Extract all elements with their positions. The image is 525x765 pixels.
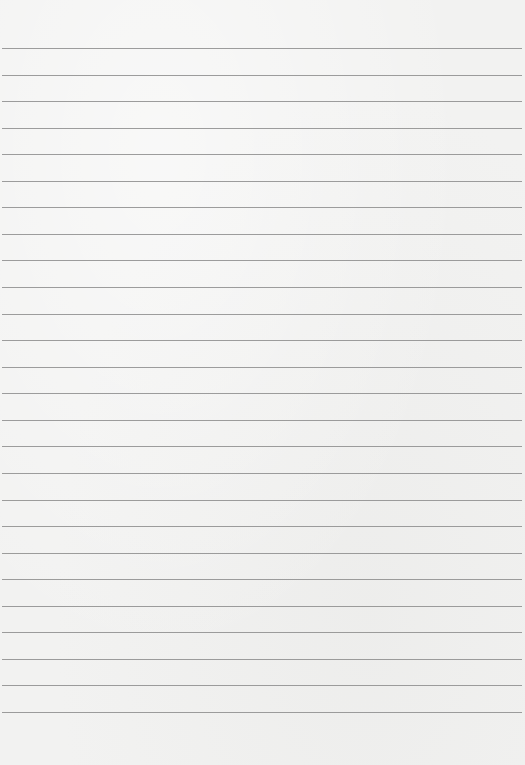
ruled-line	[2, 181, 522, 182]
ruled-line	[2, 101, 522, 102]
ruled-line	[2, 367, 522, 368]
ruled-line	[2, 579, 522, 580]
lined-paper-sheet	[0, 0, 525, 765]
ruled-line	[2, 685, 522, 686]
ruled-line	[2, 393, 522, 394]
ruled-line	[2, 207, 522, 208]
ruled-line	[2, 234, 522, 235]
ruled-line	[2, 632, 522, 633]
ruled-line	[2, 526, 522, 527]
ruled-line	[2, 420, 522, 421]
ruled-line	[2, 287, 522, 288]
ruled-line	[2, 712, 522, 713]
ruled-line	[2, 606, 522, 607]
ruled-line	[2, 128, 522, 129]
ruled-line	[2, 154, 522, 155]
ruled-line	[2, 473, 522, 474]
ruled-line	[2, 314, 522, 315]
ruled-line	[2, 340, 522, 341]
ruled-line	[2, 48, 522, 49]
ruled-line	[2, 500, 522, 501]
ruled-line	[2, 446, 522, 447]
ruled-line	[2, 553, 522, 554]
ruled-line	[2, 75, 522, 76]
ruled-line	[2, 260, 522, 261]
ruled-line	[2, 659, 522, 660]
